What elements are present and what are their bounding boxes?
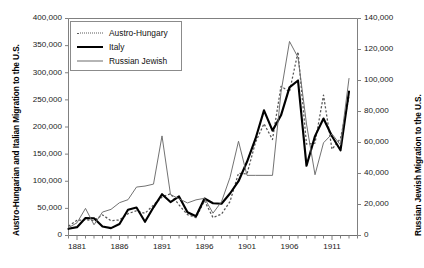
legend-label-italy: Italy bbox=[109, 42, 124, 52]
legend-label-austro-hungary: Austro-Hungary bbox=[109, 28, 168, 38]
legend-item-austro-hungary: Austro-Hungary bbox=[71, 26, 181, 40]
legend-swatch-thick-line-icon bbox=[77, 42, 103, 52]
legend-swatch-dotted-line-icon bbox=[77, 28, 103, 38]
legend-swatch-thin-line-icon bbox=[77, 56, 103, 66]
chart-legend: Austro-Hungary Italy Russian Jewish bbox=[70, 21, 182, 71]
minor-ticks bbox=[69, 236, 358, 241]
migration-line-chart: Austro-Hungarian and Italian Migration t… bbox=[0, 0, 424, 268]
legend-item-russian-jewish: Russian Jewish bbox=[71, 54, 181, 68]
legend-item-italy: Italy bbox=[71, 40, 181, 54]
plot-area bbox=[0, 0, 424, 268]
legend-label-russian-jewish: Russian Jewish bbox=[109, 56, 167, 66]
